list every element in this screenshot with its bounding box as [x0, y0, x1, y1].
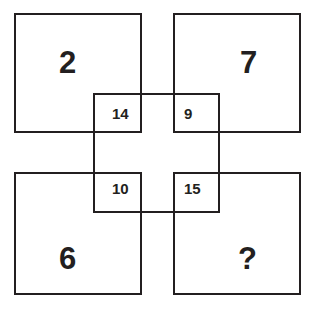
intersection-value-top-left: 14: [112, 106, 129, 121]
quadrant-value-bottom-right-unknown: ?: [238, 243, 257, 274]
quadrant-value-top-left: 2: [59, 47, 76, 78]
puzzle-figure: 2 7 6 ? 14 9 10 15: [0, 0, 314, 314]
quadrant-value-bottom-left: 6: [59, 243, 76, 274]
intersection-value-top-right: 9: [184, 106, 192, 121]
center-cross-mask-vertical: [144, 95, 171, 211]
intersection-value-bottom-left: 10: [112, 181, 129, 196]
quadrant-value-top-right: 7: [240, 47, 257, 78]
intersection-value-bottom-right: 15: [184, 181, 201, 196]
